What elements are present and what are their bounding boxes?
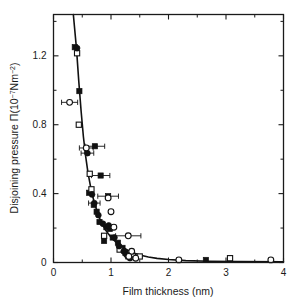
data-point-filled-circle [95,212,101,218]
data-point-open-square [89,187,94,192]
data-point-filled-circle [91,200,97,206]
x-tick-label: 2 [166,267,172,278]
data-point-open-circle [133,255,139,261]
data-point-filled-circle [112,235,118,241]
data-point-open-square [102,233,107,238]
data-point-filled-square [98,173,103,178]
x-tick-label: 3 [223,267,229,278]
data-point-filled-circle [74,45,80,51]
x-axis-label: Film thickness (nm) [122,285,213,297]
data-point-filled-square [92,144,97,149]
y-tick-label: 0.8 [33,119,47,130]
data-point-filled-square [102,238,107,243]
data-point-open-circle [111,224,117,230]
data-point-open-square [74,51,79,56]
data-point-filled-circle [100,221,106,227]
data-point-open-circle [125,233,131,239]
data-point-open-square [87,171,92,176]
data-point-open-circle [83,145,89,151]
data-point-filled-square [203,257,208,262]
data-point-filled-circle [116,243,122,249]
data-point-open-circle [105,195,111,201]
chart-figure: 0123400.40.81.2 Film thickness (nm) Disj… [0,0,297,305]
data-point-open-circle [126,254,132,260]
data-point-open-circle [67,99,73,105]
scatter-plot: 0123400.40.81.2 Film thickness (nm) Disj… [0,0,297,305]
x-tick-label: 0 [51,267,57,278]
data-point-filled-circle [89,192,95,198]
data-point-open-circle [108,209,114,215]
y-tick-label: 0.4 [33,188,47,199]
data-point-open-square [227,256,232,261]
y-tick-label: 0 [41,257,47,268]
x-tick-label: 4 [281,267,287,278]
data-point-filled-square [77,89,82,94]
x-tick-label: 1 [108,267,114,278]
data-point-open-square [76,122,81,127]
y-axis-label: Disjoining pressure Π(10−7Nm−2) [8,63,20,214]
y-tick-label: 1.2 [33,50,47,61]
